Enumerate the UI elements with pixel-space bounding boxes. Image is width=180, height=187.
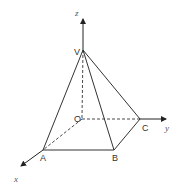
pyramid-svg: z y x V O A B C — [0, 0, 180, 187]
y-axis-label: y — [164, 123, 169, 133]
z-axis-label: z — [74, 8, 79, 18]
edge-BC — [114, 119, 140, 150]
point-label-B: B — [112, 153, 118, 163]
edge-VA — [43, 50, 83, 150]
point-label-V: V — [74, 47, 80, 57]
point-label-C: C — [142, 123, 149, 133]
pyramid-diagram: z y x V O A B C — [0, 0, 180, 187]
edge-VB — [83, 50, 114, 150]
x-axis-label: x — [13, 174, 18, 184]
edge-VC — [83, 50, 140, 119]
edge-VO — [82, 50, 83, 119]
point-label-A: A — [40, 153, 46, 163]
point-label-O: O — [74, 114, 81, 124]
